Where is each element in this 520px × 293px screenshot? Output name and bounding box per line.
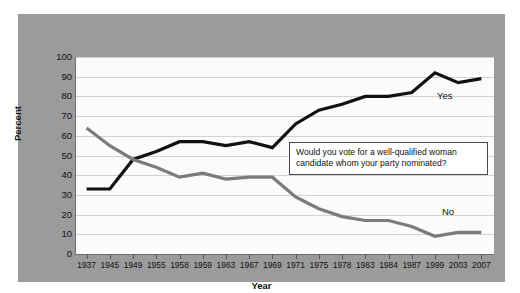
x-axis-tick-label: 1987 bbox=[402, 261, 421, 269]
y-axis-tick-label: 90 bbox=[36, 72, 72, 82]
y-axis-tick-label: 100 bbox=[36, 52, 72, 62]
series-label-yes: Yes bbox=[437, 91, 453, 101]
y-axis-tick-label: 60 bbox=[36, 131, 72, 141]
x-axis-tick-label: 1999 bbox=[426, 261, 445, 269]
x-axis-tick bbox=[226, 254, 227, 259]
y-axis-tick-label: 0 bbox=[36, 249, 72, 259]
x-axis-title: Year bbox=[18, 280, 505, 291]
y-axis-tick-label: 20 bbox=[36, 210, 72, 220]
x-axis-tick bbox=[412, 254, 413, 259]
series-label-no: No bbox=[442, 207, 454, 217]
x-axis-tick-label: 1945 bbox=[101, 261, 120, 269]
x-axis-tick-label: 1978 bbox=[333, 261, 352, 269]
x-axis-tick bbox=[133, 254, 134, 259]
x-axis-tick-label: 1967 bbox=[240, 261, 259, 269]
x-axis-tick-label: 1984 bbox=[379, 261, 398, 269]
x-axis-ticks bbox=[75, 254, 493, 259]
x-axis-tick-label: 1955 bbox=[147, 261, 166, 269]
x-axis-tick bbox=[110, 254, 111, 259]
x-axis-tick-label: 1959 bbox=[193, 261, 212, 269]
x-axis-tick bbox=[156, 254, 157, 259]
x-axis-tick bbox=[203, 254, 204, 259]
x-axis-tick bbox=[87, 254, 88, 259]
x-axis-tick-labels: 1937194519491955195819591963196719691971… bbox=[75, 261, 493, 275]
x-axis-tick bbox=[272, 254, 273, 259]
x-axis-tick-label: 1937 bbox=[77, 261, 96, 269]
x-axis-tick-label: 1975 bbox=[310, 261, 329, 269]
x-axis-tick bbox=[365, 254, 366, 259]
chart-figure: 0102030405060708090100 Percent Yes No Wo… bbox=[0, 0, 520, 293]
y-axis-tick-label: 50 bbox=[36, 151, 72, 161]
y-axis-tick-label: 40 bbox=[36, 170, 72, 180]
y-axis-title: Percent bbox=[12, 106, 23, 141]
chart-panel: 0102030405060708090100 Percent Yes No Wo… bbox=[18, 14, 505, 282]
x-axis-tick bbox=[319, 254, 320, 259]
y-axis-tick-label: 30 bbox=[36, 190, 72, 200]
x-axis-tick bbox=[481, 254, 482, 259]
survey-question-callout: Would you vote for a well-qualified woma… bbox=[289, 142, 488, 175]
x-axis-tick-label: 2007 bbox=[472, 261, 491, 269]
x-axis-tick-label: 1983 bbox=[356, 261, 375, 269]
x-axis-tick bbox=[180, 254, 181, 259]
x-axis-tick bbox=[296, 254, 297, 259]
x-axis-tick bbox=[458, 254, 459, 259]
x-axis-tick-label: 1971 bbox=[286, 261, 305, 269]
x-axis-tick bbox=[389, 254, 390, 259]
x-axis-tick bbox=[342, 254, 343, 259]
x-axis-tick bbox=[435, 254, 436, 259]
y-axis-tick-label: 70 bbox=[36, 111, 72, 121]
x-axis-tick-label: 1969 bbox=[263, 261, 282, 269]
x-axis-tick-label: 2003 bbox=[449, 261, 468, 269]
x-axis-tick-label: 1949 bbox=[124, 261, 143, 269]
x-axis-tick-label: 1958 bbox=[170, 261, 189, 269]
x-axis-tick bbox=[249, 254, 250, 259]
y-axis-tick-label: 80 bbox=[36, 92, 72, 102]
y-axis-tick-label: 10 bbox=[36, 230, 72, 240]
x-axis-tick-label: 1963 bbox=[217, 261, 236, 269]
y-axis-tick-labels: 0102030405060708090100 bbox=[36, 57, 72, 254]
